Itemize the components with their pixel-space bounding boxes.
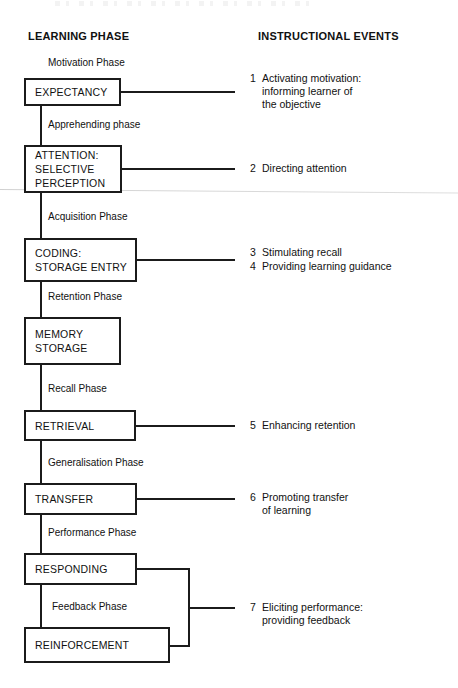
event-number-1: 1 [250,72,262,85]
scan-artifact-top [55,1,315,6]
connector-responding-to-reinforcement [40,585,42,627]
event-number-2: 2 [250,162,262,175]
event-text-7: Eliciting performance: providing feedbac… [262,601,363,627]
leader-line-event-7 [190,607,235,609]
event-item-3: 3 Stimulating recall [250,246,455,259]
connector-transfer-to-responding [40,515,42,553]
event-item-1: 1 Activating motivation: informing learn… [250,72,450,111]
event-number-3: 3 [250,246,262,259]
node-attention-selective-perception[interactable]: ATTENTION: SELECTIVE PERCEPTION [24,145,122,193]
event-item-5: 5 Enhancing retention [250,419,450,432]
node-responding[interactable]: RESPONDING [24,553,137,585]
flowchart-diagram: LEARNING PHASE INSTRUCTIONAL EVENTS Moti… [0,0,458,688]
phase-label-feedback: Feedback Phase [52,601,127,613]
node-reinforcement[interactable]: REINFORCEMENT [24,627,170,663]
event-number-7: 7 [250,601,262,614]
node-expectancy-label: EXPECTANCY [26,85,107,99]
connector-retrieval-to-transfer [40,441,42,483]
node-transfer[interactable]: TRANSFER [24,483,137,515]
event-item-4: 4 Providing learning guidance [250,260,455,273]
event-number-4: 4 [250,260,262,273]
connector-attention-to-coding [40,193,42,238]
header-learning-phase: LEARNING PHASE [28,30,129,42]
node-responding-label: RESPONDING [26,562,108,576]
phase-label-recall: Recall Phase [48,383,107,395]
connector-expectancy-to-attention [40,105,42,146]
event-item-7: 7 Eliciting performance: providing feedb… [250,601,450,627]
node-retrieval-label: RETRIEVAL [26,419,94,433]
event-item-6: 6 Promoting transfer of learning [250,491,450,517]
node-expectancy[interactable]: EXPECTANCY [24,78,121,106]
event-text-5: Enhancing retention [262,419,355,432]
event-text-3: Stimulating recall [262,246,342,259]
connector-memory-to-retrieval [40,365,42,410]
phase-label-motivation: Motivation Phase [48,57,125,69]
node-retrieval[interactable]: RETRIEVAL [24,410,136,441]
node-transfer-label: TRANSFER [26,492,93,506]
event-number-6: 6 [250,491,262,504]
leader-line-event-3-4 [137,259,235,261]
connector-coding-to-memory [40,282,42,317]
bracket-top-arm [137,568,190,570]
event-text-4: Providing learning guidance [262,260,392,273]
leader-line-event-1 [121,91,235,93]
phase-label-retention: Retention Phase [48,291,122,303]
node-coding-storage-entry[interactable]: CODING: STORAGE ENTRY [24,238,137,282]
phase-label-acquisition: Acquisition Phase [48,211,128,223]
phase-label-generalisation: Generalisation Phase [48,457,144,469]
node-memory-storage[interactable]: MEMORY STORAGE [24,317,121,365]
event-text-1: Activating motivation: informing learner… [262,72,361,111]
node-coding-label: CODING: STORAGE ENTRY [26,246,127,274]
phase-label-apprehending: Apprehending phase [48,119,140,131]
event-text-6: Promoting transfer of learning [262,491,348,517]
event-item-2: 2 Directing attention [250,162,450,175]
event-number-5: 5 [250,419,262,432]
node-memory-label: MEMORY STORAGE [26,327,88,355]
node-attention-label: ATTENTION: SELECTIVE PERCEPTION [26,148,105,190]
phase-label-performance: Performance Phase [48,527,136,539]
leader-line-event-5 [136,425,235,427]
header-instructional-events: INSTRUCTIONAL EVENTS [258,30,399,42]
event-text-2: Directing attention [262,162,347,175]
node-reinforcement-label: REINFORCEMENT [26,638,129,652]
leader-line-event-6 [137,498,235,500]
bracket-bottom-arm [170,645,190,647]
leader-line-event-2 [122,168,235,170]
